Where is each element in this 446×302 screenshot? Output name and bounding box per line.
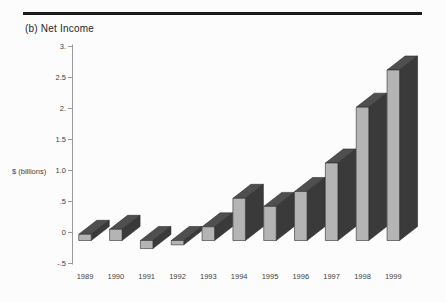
bar-front-face — [295, 192, 308, 241]
bar-1997 — [325, 149, 356, 241]
x-axis-tick-label: 1996 — [292, 272, 309, 281]
bar-1989 — [79, 220, 110, 240]
x-axis-tick-label: 1993 — [200, 272, 217, 281]
x-axis-tick-label: 1999 — [385, 272, 402, 281]
bar-side-face — [369, 93, 387, 240]
y-axis-tick-label: 1.0 — [56, 166, 66, 175]
bar-1994 — [233, 184, 264, 240]
bar-front-face — [264, 206, 277, 240]
y-axis-tick-label: 2. — [60, 104, 66, 113]
bar-1991 — [140, 227, 171, 249]
x-axis-tick-label: 1990 — [107, 272, 124, 281]
bar-front-face — [356, 107, 369, 240]
bar-1990 — [110, 215, 141, 240]
bar-front-face — [325, 163, 338, 241]
bar-front-face — [233, 198, 246, 240]
bar-1998 — [356, 93, 387, 240]
y-axis-tick-label: 0 — [62, 228, 66, 237]
x-axis-tick-label: 1997 — [323, 272, 340, 281]
y-axis-tick-label: .5 — [60, 197, 66, 206]
y-axis-tick-label: 1.5 — [56, 135, 66, 144]
bar-side-face — [400, 56, 418, 241]
x-axis-tick-label: 1991 — [138, 272, 155, 281]
bar-front-face — [110, 229, 123, 240]
bar-1999 — [387, 56, 418, 241]
bar-1995 — [264, 192, 295, 240]
bar-front-face — [202, 227, 215, 241]
bar-front-face — [79, 234, 92, 240]
y-axis-tick-label: -.5 — [57, 259, 66, 268]
x-axis-tick-label: 1992 — [169, 272, 186, 281]
bar-1992 — [171, 227, 202, 245]
x-axis-tick-label: 1995 — [262, 272, 279, 281]
y-axis-tick-label: 2.5 — [56, 73, 66, 82]
x-axis-tick-label: 1994 — [231, 272, 248, 281]
bar-1993 — [202, 213, 233, 241]
x-axis-tick-label: 1989 — [77, 272, 94, 281]
y-axis-tick-label: 3. — [60, 42, 66, 51]
bar-front-face — [140, 241, 153, 249]
x-axis-tick-label: 1998 — [354, 272, 371, 281]
bar-chart-canvas: 3.2.52.1.51.0.50-.5198919901991199219931… — [0, 0, 446, 302]
net-income-figure: (b) Net Income $ (billions) 3.2.52.1.51.… — [0, 0, 446, 302]
bar-1996 — [295, 178, 326, 241]
bar-front-face — [171, 241, 184, 245]
bar-side-face — [338, 149, 356, 241]
bar-front-face — [387, 70, 400, 241]
